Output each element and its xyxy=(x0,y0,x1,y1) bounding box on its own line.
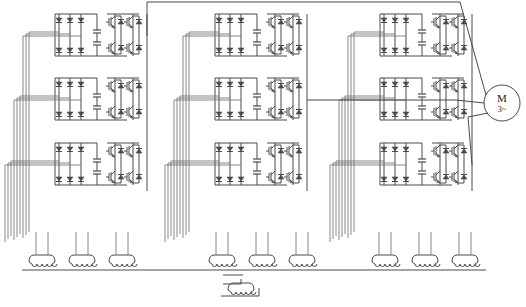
capacitor-icon xyxy=(93,106,101,109)
winding-side xyxy=(69,262,95,264)
winding-turn xyxy=(127,264,132,267)
capacitor-icon xyxy=(253,42,261,45)
diode-triangle xyxy=(238,48,244,52)
diode-icon xyxy=(238,48,244,53)
diode-triangle xyxy=(216,48,222,52)
capacitor-icon xyxy=(418,94,426,97)
winding-turn xyxy=(465,264,470,267)
diode-icon xyxy=(78,82,84,87)
winding-top xyxy=(412,255,438,262)
diode-icon xyxy=(216,18,222,23)
diode-triangle xyxy=(67,112,73,116)
power-cell-1-1 xyxy=(23,14,142,56)
motor-phase-c xyxy=(468,113,488,165)
winding-turn xyxy=(415,264,420,267)
winding-turn xyxy=(460,264,465,267)
diode-icon xyxy=(392,48,398,53)
igbt-collector xyxy=(271,16,275,20)
diode-triangle xyxy=(403,48,409,52)
power-cell-2-1 xyxy=(183,14,302,56)
power-cells xyxy=(23,14,472,191)
winding-turn xyxy=(32,264,37,267)
igbt-icon xyxy=(266,80,275,92)
igbt-collector xyxy=(111,145,115,149)
diode-triangle xyxy=(392,177,398,181)
diode-triangle xyxy=(67,177,73,181)
winding-turn xyxy=(475,264,480,267)
igbt-icon xyxy=(284,106,293,118)
diode-triangle xyxy=(381,112,387,116)
diode-icon xyxy=(238,112,244,117)
transformer-feed-wires xyxy=(5,32,354,242)
igbt-icon xyxy=(106,106,115,118)
diode-triangle xyxy=(216,18,222,22)
secondary-winding-9 xyxy=(452,255,480,267)
diode-triangle xyxy=(78,177,84,181)
winding-turn xyxy=(262,264,267,267)
igbt-collector xyxy=(436,145,440,149)
igbt-icon xyxy=(106,42,115,54)
power-cell-1-3 xyxy=(23,143,142,185)
diode-triangle xyxy=(216,147,222,151)
diode-icon xyxy=(392,112,398,117)
diode-triangle xyxy=(403,147,409,151)
igbt-collector xyxy=(129,16,133,20)
winding-turn xyxy=(470,264,475,267)
igbt-collector xyxy=(129,106,133,110)
diode-triangle xyxy=(56,48,62,52)
diode-icon xyxy=(67,147,73,152)
diode-triangle xyxy=(392,48,398,52)
winding-turn xyxy=(42,264,47,267)
igbt-collector xyxy=(271,171,275,175)
winding-turn xyxy=(246,292,251,295)
winding-top xyxy=(372,255,398,262)
diode-triangle xyxy=(392,147,398,151)
diode-triangle xyxy=(381,177,387,181)
winding-turn xyxy=(425,264,430,267)
diode-icon xyxy=(227,177,233,182)
diode-triangle xyxy=(381,48,387,52)
winding-turn xyxy=(380,264,385,267)
igbt-collector xyxy=(454,145,458,149)
diode-triangle xyxy=(238,177,244,181)
winding-turn xyxy=(231,292,236,295)
igbt-icon xyxy=(124,80,133,92)
diode-icon xyxy=(381,48,387,53)
winding-top xyxy=(69,255,95,262)
winding-turn xyxy=(375,264,380,267)
diode-icon xyxy=(56,147,62,152)
winding-turn xyxy=(395,264,400,267)
power-cell-3-2 xyxy=(348,78,467,120)
diode-triangle xyxy=(56,18,62,22)
diode-triangle xyxy=(381,82,387,86)
winding-turn xyxy=(307,264,312,267)
igbt-icon xyxy=(106,16,115,28)
winding-turn xyxy=(212,264,217,267)
diode-triangle xyxy=(238,112,244,116)
transformer xyxy=(22,232,486,296)
winding-turn xyxy=(430,264,435,267)
igbt-icon xyxy=(266,171,275,183)
diode-icon xyxy=(238,147,244,152)
diode-triangle xyxy=(56,82,62,86)
igbt-collector xyxy=(111,16,115,20)
secondary-winding-6 xyxy=(289,255,317,267)
feeder-wire xyxy=(342,98,351,237)
igbt-icon xyxy=(106,171,115,183)
winding-turn xyxy=(37,264,42,267)
winding-side xyxy=(452,262,478,264)
diode-triangle xyxy=(67,147,73,151)
diode-triangle xyxy=(392,82,398,86)
winding-top xyxy=(209,255,235,262)
igbt-icon xyxy=(266,145,275,157)
igbt-icon xyxy=(266,106,275,118)
winding-turn xyxy=(435,264,440,267)
diode-triangle xyxy=(216,177,222,181)
igbt-collector xyxy=(289,145,293,149)
diode-icon xyxy=(392,18,398,23)
cascaded-h-bridge-diagram: M 3~ xyxy=(0,0,526,307)
diode-icon xyxy=(392,82,398,87)
feeder-wire xyxy=(17,98,26,237)
winding-turn xyxy=(232,264,237,267)
winding-turn xyxy=(92,264,97,267)
